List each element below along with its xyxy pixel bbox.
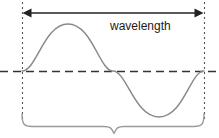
bottom-brace xyxy=(22,114,204,134)
wavelength-double-arrow xyxy=(23,9,204,18)
wavelength-diagram: wavelength xyxy=(0,0,219,138)
sine-wave-curve xyxy=(22,24,204,117)
arrow-head-left-icon xyxy=(23,9,32,18)
wavelength-label: wavelength xyxy=(110,19,171,33)
arrow-head-right-icon xyxy=(195,9,204,18)
